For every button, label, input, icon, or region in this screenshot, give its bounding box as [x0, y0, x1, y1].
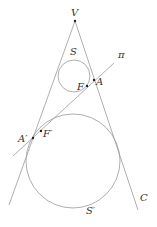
point-f-label: F — [76, 81, 85, 92]
point-a-prime — [32, 137, 34, 139]
point-f — [86, 85, 88, 87]
large-sphere-circle — [26, 114, 120, 208]
point-f-prime-label: F′ — [42, 128, 53, 139]
point-f-prime — [40, 130, 42, 132]
small-sphere-label: S — [70, 46, 77, 57]
vertex-point — [74, 20, 76, 22]
cone-label: C — [140, 192, 148, 203]
point-a-prime-label: A′ — [17, 133, 28, 144]
vertex-label: V — [71, 7, 80, 18]
dandelin-diagram: V S π A F A′ F′ S′ C — [0, 0, 157, 227]
plane-label: π — [117, 49, 125, 60]
point-a-label: A — [95, 76, 103, 87]
small-sphere-circle — [58, 60, 90, 92]
large-sphere-label: S′ — [86, 205, 96, 216]
point-a — [93, 79, 95, 81]
cone-left-line — [9, 21, 75, 205]
diagram-svg: V S π A F A′ F′ S′ C — [0, 0, 157, 227]
